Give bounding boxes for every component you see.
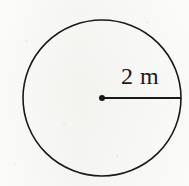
circle-radius-figure: 2 m — [0, 0, 189, 186]
radius-dimension-label: 2 m — [121, 64, 159, 88]
center-point-dot — [99, 95, 105, 101]
geometry-canvas — [0, 0, 189, 186]
